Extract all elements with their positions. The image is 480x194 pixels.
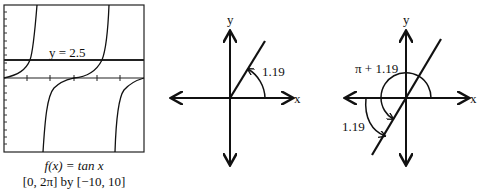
large-angle-label: π + 1.19 bbox=[355, 61, 398, 76]
window-caption: [0, 2π] by [−10, 10] bbox=[23, 174, 126, 189]
small-angle-label: 1.19 bbox=[342, 119, 365, 134]
angle-diagram-1: y x 1.19 bbox=[172, 12, 301, 164]
y-axis-label: y bbox=[403, 12, 410, 27]
x-axis-label: x bbox=[470, 91, 477, 106]
tan-branch-3 bbox=[115, 78, 144, 152]
figure-canvas: y = 2.5 f(x) = tan x [0, 2π] by [−10, 10… bbox=[0, 0, 480, 194]
angle-diagram-2: y x π + 1.19 1.19 bbox=[342, 12, 477, 164]
x-axis-label: x bbox=[294, 91, 301, 106]
function-caption: f(x) = tan x bbox=[45, 158, 104, 173]
line-label: y = 2.5 bbox=[49, 45, 86, 60]
tan-branch-1 bbox=[4, 5, 37, 78]
y-axis-label: y bbox=[227, 12, 234, 27]
tan-graph-panel: y = 2.5 bbox=[4, 5, 144, 152]
angle-label: 1.19 bbox=[262, 64, 285, 79]
terminal-ray bbox=[230, 41, 265, 98]
